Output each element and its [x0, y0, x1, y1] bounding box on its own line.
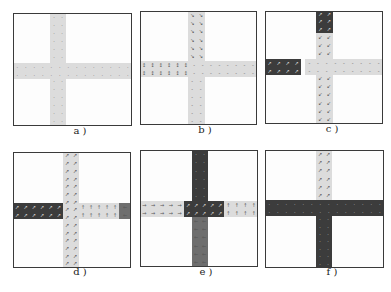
flow-arrow-icon: ↗: [208, 203, 216, 208]
flow-arrow-icon: ←: [200, 252, 208, 257]
flow-arrow-icon: →: [175, 203, 184, 208]
flow-arrow-icon: ·: [50, 39, 58, 44]
flow-arrow-icon: -: [314, 61, 323, 66]
flow-arrow-icon: ↙: [325, 76, 334, 81]
flow-arrow-icon: -: [188, 95, 197, 100]
flow-arrow-icon: ↗: [63, 207, 71, 212]
flow-arrow-icon: -: [314, 69, 323, 74]
flow-arrow-icon: ·: [192, 160, 200, 165]
flow-arrow-icon: ·: [192, 169, 200, 174]
flow-arrow-icon: ↑: [233, 203, 242, 208]
flow-arrow-icon: ←: [200, 219, 208, 224]
flow-arrow-icon: -: [197, 111, 206, 116]
flow-arrow-icon: -: [215, 63, 223, 68]
flow-arrow-icon: -: [224, 71, 232, 76]
flow-arrow-icon: ↕: [165, 63, 173, 68]
flow-arrow-icon: ·: [115, 65, 124, 70]
flow-arrow-icon: -: [207, 71, 215, 76]
flow-arrow-icon: -: [331, 69, 340, 74]
flow-arrow-icon: ↗: [192, 211, 200, 216]
flow-arrow-icon: ↙: [316, 43, 325, 48]
flow-arrow-icon: ↙: [325, 109, 334, 114]
flow-arrow-icon: ·: [58, 119, 66, 124]
flow-arrow-icon: ·: [64, 73, 73, 78]
flow-arrow-icon: ↗: [324, 152, 332, 157]
flow-arrow-icon: -: [232, 71, 240, 76]
flow-arrow-icon: ↕: [157, 71, 165, 76]
flow-arrow-icon: ↗: [325, 12, 334, 17]
flow-arrow-icon: ↑: [95, 213, 103, 218]
flow-arrow-icon: ·: [333, 210, 342, 215]
flow-arrow-icon: ↙: [325, 43, 334, 48]
horizontal-road-right: ----------------: [190, 61, 257, 77]
flow-arrow-icon: ↗: [71, 161, 79, 166]
flow-arrow-icon: ·: [50, 111, 58, 116]
flow-arrow-icon: ·: [81, 73, 90, 78]
flow-arrow-icon: →: [175, 211, 184, 216]
flow-arrow-icon: ·: [50, 55, 58, 60]
horizontal-road-right: ↑↑↑↑↑↑↑↑↑↑: [79, 203, 119, 219]
flow-arrow-icon: ↗: [283, 61, 292, 66]
flow-arrow-icon: ·: [58, 47, 66, 52]
flow-arrow-icon: ↕: [173, 71, 181, 76]
flow-arrow-icon: ↗: [324, 185, 332, 190]
flow-arrow-icon: ·: [22, 73, 31, 78]
flow-arrow-icon: ↘: [188, 38, 197, 43]
panel-label: c ): [312, 123, 352, 134]
flow-arrow-icon: -: [197, 87, 206, 92]
flow-arrow-icon: -: [374, 69, 383, 74]
flow-arrow-icon: ·: [333, 202, 342, 207]
flow-arrow-icon: ↗: [184, 211, 192, 216]
flow-arrow-icon: ↑: [241, 211, 250, 216]
horizontal-road-left-congested: ↗↗↗↗↗↗↗↗↗↗↗↗: [13, 203, 63, 219]
flow-arrow-icon: ·: [98, 73, 107, 78]
flow-arrow-icon: ·: [274, 210, 283, 215]
flow-arrow-icon: ·: [200, 160, 208, 165]
flow-arrow-icon: ↗: [71, 169, 79, 174]
flow-arrow-icon: ↗: [265, 61, 274, 66]
flow-arrow-icon: ↙: [325, 84, 334, 89]
flow-arrow-icon: ↘: [197, 13, 206, 18]
flow-arrow-icon: ↗: [71, 184, 79, 189]
flow-arrow-icon: ←: [200, 227, 208, 232]
flow-arrow-icon: ↗: [71, 223, 79, 228]
flow-arrow-icon: -: [357, 61, 366, 66]
flow-arrow-icon: ·: [58, 31, 66, 36]
flow-arrow-icon: -: [188, 79, 197, 84]
flow-arrow-icon: ←: [192, 252, 200, 257]
flow-arrow-icon: ↗: [71, 153, 79, 158]
flow-arrow-icon: →: [166, 211, 175, 216]
flow-arrow-icon: ↑: [250, 211, 259, 216]
flow-arrow-icon: ·: [64, 65, 73, 70]
flow-arrow-icon: ↗: [63, 200, 71, 205]
flow-arrow-icon: ↗: [292, 69, 301, 74]
flow-arrow-icon: ↗: [216, 211, 224, 216]
flow-arrow-icon: ·: [367, 210, 376, 215]
flow-arrow-icon: -: [249, 71, 257, 76]
flow-arrow-icon: ↑: [241, 203, 250, 208]
flow-arrow-icon: ↗: [200, 211, 208, 216]
flow-arrow-icon: ↗: [184, 203, 192, 208]
flow-arrow-icon: ·: [30, 73, 39, 78]
vertical-road-lower-congested: ··············: [316, 216, 332, 268]
flow-arrow-icon: ·: [47, 65, 56, 70]
flow-arrow-icon: ·: [56, 73, 65, 78]
flow-arrow-icon: ·: [50, 23, 58, 28]
flow-arrow-icon: ↑: [103, 213, 111, 218]
flow-arrow-icon: -: [305, 69, 314, 74]
flow-arrow-icon: ↗: [63, 254, 71, 259]
horizontal-road-left: ↕↕↕↕↕↕↕↕↕↕↕↕: [140, 61, 190, 77]
flow-arrow-icon: ↕: [148, 71, 156, 76]
flow-arrow-icon: ·: [325, 202, 334, 207]
flow-arrow-icon: ·: [324, 247, 332, 252]
flow-arrow-icon: ↑: [79, 213, 87, 218]
flow-arrow-icon: ↘: [197, 54, 206, 59]
flow-arrow-icon: ↗: [63, 223, 71, 228]
flow-arrow-icon: ·: [50, 15, 58, 20]
panel-b: ↘↘↘↘↘↘↘↘↘↘↘↘------------↕↕↕↕↕↕↕↕↕↕↕↕----…: [140, 11, 257, 125]
flow-arrow-icon: ↗: [324, 193, 332, 198]
flow-arrow-icon: -: [331, 61, 340, 66]
flow-arrow-icon: ←: [192, 244, 200, 249]
flow-arrow-icon: ↗: [71, 177, 79, 182]
flow-arrow-icon: ·: [47, 73, 56, 78]
